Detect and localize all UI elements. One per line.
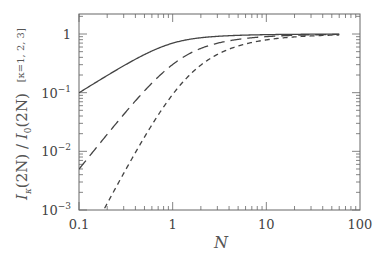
x-tick-label: 1	[169, 217, 177, 232]
x-axis-tick-labels: 0.1110100	[69, 217, 373, 232]
y-axis-tick-labels: 110−110−210−3	[41, 27, 71, 218]
curves	[79, 34, 339, 256]
x-axis-title: N	[213, 233, 229, 252]
y-tick-label: 10−3	[41, 201, 71, 218]
y-tick-label: 1	[63, 27, 71, 42]
y-tick-label: 10−2	[41, 142, 71, 159]
y-axis-ticks	[79, 16, 360, 210]
ylabel-end: (2N)	[13, 93, 31, 127]
x-tick-label: 100	[348, 217, 373, 232]
svg-text:Iκ(2N) / I0(2N) [κ=1, 2,: Iκ(2N) / I0(2N) [κ=1, 2, 3]	[13, 28, 33, 201]
y-axis-title: Iκ(2N) / I0(2N) [κ=1, 2, 3]	[13, 28, 33, 201]
curve-κ-3	[79, 35, 339, 256]
ylabel-annotation: [κ=1, 2, 3]	[15, 28, 26, 82]
curve-κ-2	[79, 34, 339, 169]
y-tick-label: 10−1	[41, 84, 71, 101]
plot-frame	[79, 14, 360, 210]
ylabel-mid: (2N) /	[13, 139, 31, 188]
curve-κ-1	[79, 34, 339, 93]
x-tick-label: 10	[258, 217, 275, 232]
x-tick-label: 0.1	[69, 217, 90, 232]
chart: 0.1110100 110−110−210−3 N Iκ(2N) / I0(2N…	[0, 0, 388, 260]
